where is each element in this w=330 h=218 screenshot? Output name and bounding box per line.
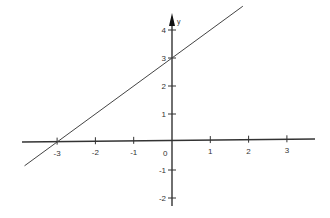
chart: -3-2-11234321-1-2 y 0 [0, 0, 330, 218]
x-tick-label: 3 [285, 146, 290, 155]
x-tick-label: -1 [130, 148, 138, 157]
x-axis [22, 139, 315, 142]
x-tick-label: -3 [54, 149, 62, 158]
y-tick-label: 2 [162, 82, 167, 91]
x-tick-label: 2 [246, 147, 251, 156]
y-axis-arrow [169, 13, 175, 26]
y-tick-label: 1 [162, 110, 167, 119]
x-tick-label: 1 [208, 147, 213, 156]
x-tick-label: -2 [92, 148, 100, 157]
y-tick-label: 4 [162, 26, 167, 35]
y-axis-label: y [177, 18, 181, 26]
axes [22, 13, 315, 206]
y-tick-label: -2 [159, 194, 167, 203]
y-tick-label: 3 [162, 54, 167, 63]
y-tick-label: -1 [159, 166, 167, 175]
origin-label: 0 [163, 149, 168, 158]
